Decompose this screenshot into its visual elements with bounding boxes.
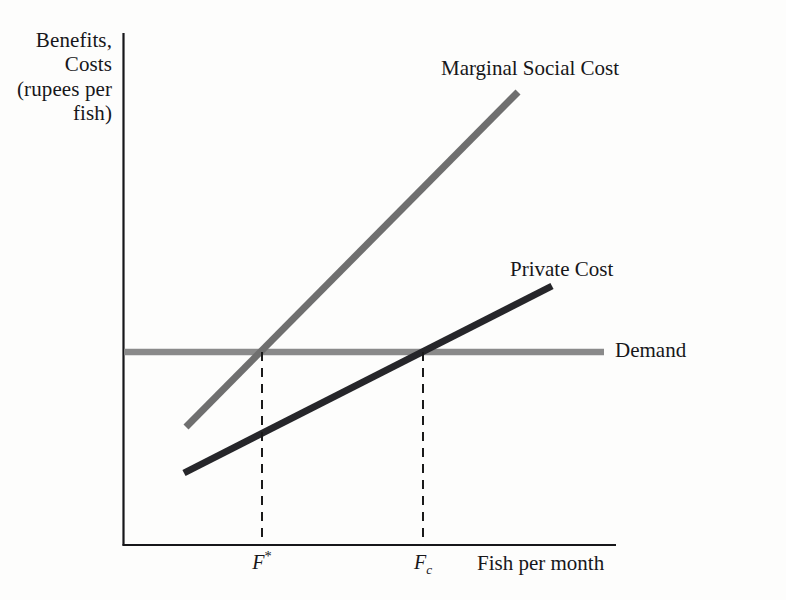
y-axis-title-line-1: Benefits, [0,28,112,52]
private-cost-curve [184,286,552,473]
economics-diagram-figure: Benefits, Costs (rupees per fish) Margin… [0,0,786,600]
x-axis-title: Fish per month [477,551,604,575]
chart-canvas [0,0,786,600]
x-tick-f-c-subscript: c [426,562,432,577]
y-axis-title-line-4: fish) [0,101,112,125]
y-axis-title-line-3: (rupees per [0,77,112,101]
marginal-social-cost-label: Marginal Social Cost [441,56,619,80]
x-tick-f-star-base: F [252,551,264,573]
y-axis-title: Benefits, Costs (rupees per fish) [0,28,112,125]
demand-label: Demand [615,338,686,362]
x-tick-label-f-c: Fc [414,551,432,574]
marginal-social-cost-curve [186,92,518,427]
x-tick-label-f-star: F* [252,551,271,574]
x-tick-f-c-base: F [414,551,426,573]
x-tick-f-star-superscript: * [265,548,272,564]
private-cost-label: Private Cost [510,257,613,281]
y-axis-title-line-2: Costs [0,52,112,76]
